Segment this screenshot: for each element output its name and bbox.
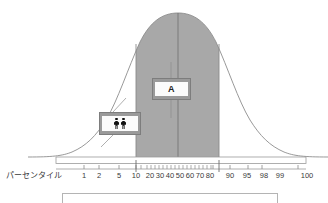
baseline-band (56, 157, 306, 164)
tick-label-60: 60 (186, 171, 194, 180)
tick-label-20: 20 (146, 171, 154, 180)
person-icon-right (121, 118, 126, 130)
tick-label-90: 90 (226, 171, 234, 180)
tick-label-10: 10 (132, 171, 140, 180)
tick-label-98: 98 (260, 171, 268, 180)
tick-label-5: 5 (117, 171, 121, 180)
tick-label-70: 70 (196, 171, 204, 180)
two-people-icon (102, 116, 138, 131)
callout-marker-a-label: A (155, 82, 188, 96)
tick-label-2: 2 (97, 171, 101, 180)
tick-label-100: 100 (301, 171, 314, 180)
bottom-caption-box (62, 193, 278, 203)
tick-label-30: 30 (156, 171, 164, 180)
tick-label-95: 95 (243, 171, 251, 180)
tick-label-80: 80 (206, 171, 214, 180)
callout-people[interactable] (99, 112, 141, 135)
axis-title-percentile: パーセンタイル (6, 171, 62, 181)
percentile-chart-figure: パーセンタイル 1 2 5 10 20 30 40 50 60 70 80 90… (0, 0, 328, 203)
tick-label-40: 40 (166, 171, 174, 180)
tick-label-50: 50 (176, 171, 184, 180)
axis-minor-ticks (141, 165, 211, 169)
tick-label-99: 99 (276, 171, 284, 180)
callout-marker-a[interactable]: A (152, 78, 191, 100)
tick-label-1: 1 (82, 171, 86, 180)
person-icon-left (114, 118, 119, 130)
